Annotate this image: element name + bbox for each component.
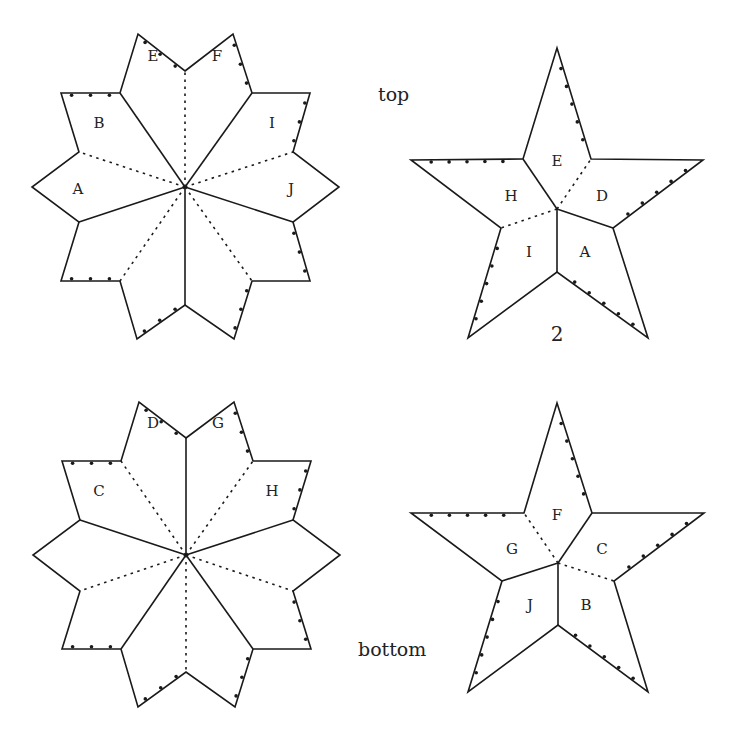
seam-tick-mark [173, 308, 177, 312]
seam-tick-mark [108, 93, 112, 97]
seam-tick-mark [574, 634, 578, 638]
seam-tick-mark [570, 102, 574, 106]
seam-tick-mark [576, 120, 580, 124]
piece-label-D: D [147, 414, 159, 432]
seam-tick-mark [304, 469, 308, 473]
bottom-five-point-star-outline [411, 403, 704, 692]
seam-tick-mark [292, 139, 296, 143]
seam-tick-mark [71, 645, 75, 649]
seam-tick-mark [670, 533, 674, 537]
piece-label-E: E [552, 152, 563, 170]
piece-label-H: H [265, 482, 278, 500]
seam-tick-mark [159, 686, 163, 690]
seam-tick-mark [565, 439, 569, 443]
seam-tick-mark [70, 277, 74, 281]
seam-tick-mark [292, 600, 296, 604]
seam-tick-mark [90, 645, 94, 649]
seam-tick-mark [602, 301, 606, 305]
seam-tick-mark [298, 619, 302, 623]
seam-tick-mark [108, 277, 112, 281]
seam-tick-mark [495, 247, 499, 251]
piece-label-A: A [72, 180, 84, 198]
seam-tick-mark [298, 250, 302, 254]
caption-bottom: bottom [358, 638, 426, 660]
seam-tick-mark [669, 180, 673, 184]
seam-tick-mark [501, 160, 505, 164]
seam-tick-mark [617, 666, 621, 670]
seam-tick-mark [173, 64, 177, 68]
bottom-five-point-star: FGCJB [411, 403, 704, 692]
seam-tick-mark [245, 81, 249, 85]
seam-tick-mark [304, 637, 308, 641]
seam-tick-mark [617, 312, 621, 316]
seam-tick-mark [447, 160, 451, 164]
seam-tick-mark [303, 269, 307, 273]
seam-tick-mark [466, 513, 470, 517]
seam-tick-mark [109, 645, 113, 649]
piece-label-G: G [506, 540, 518, 558]
seam-tick-mark [588, 644, 592, 648]
figure-number-label: 2 [551, 322, 564, 346]
piece-label-B: B [580, 596, 591, 614]
seam-tick-mark [484, 513, 488, 517]
seam-tick-mark [240, 676, 244, 680]
seam-tick-mark [429, 160, 433, 164]
top-five-point-star-outline [411, 48, 703, 338]
piece-label-A: A [579, 243, 591, 261]
piece-label-G: G [212, 414, 224, 432]
seam-tick-mark [631, 676, 635, 680]
seam-tick-mark [239, 62, 243, 66]
seam-tick-mark [109, 461, 113, 465]
seam-tick-mark [89, 93, 93, 97]
seam-tick-mark [292, 507, 296, 511]
piece-label-J: J [525, 596, 533, 614]
seam-tick-mark [576, 475, 580, 479]
seam-tick-mark [631, 323, 635, 327]
piece-label-E: E [148, 47, 159, 65]
seam-tick-mark [245, 289, 249, 293]
seam-tick-mark [71, 461, 75, 465]
shapes-layer: EFBIAJEHDIADGCHFGCJB [32, 34, 704, 707]
seam-tick-mark [485, 282, 489, 286]
seam-tick-mark [483, 160, 487, 164]
seam-tick-mark [685, 522, 689, 526]
seam-tick-mark [641, 201, 645, 205]
seam-tick-mark [465, 160, 469, 164]
seam-tick-mark [491, 618, 495, 622]
seam-tick-mark [480, 653, 484, 657]
seam-tick-mark [626, 212, 630, 216]
piece-label-H: H [504, 187, 517, 205]
piece-label-I: I [269, 114, 275, 132]
seam-tick-mark [174, 432, 178, 436]
piece-label-F: F [552, 506, 562, 524]
seam-tick-mark [70, 93, 74, 97]
seam-tick-mark [159, 420, 163, 424]
piece-label-C: C [596, 540, 607, 558]
seam-tick-mark [239, 308, 243, 312]
seam-tick-mark [234, 412, 238, 416]
bottom-decagon-star: DGCH [33, 402, 340, 707]
seam-tick-mark [603, 655, 607, 659]
seam-tick-mark [587, 291, 591, 295]
seam-tick-mark [303, 101, 307, 105]
seam-tick-mark [144, 408, 148, 412]
seam-tick-mark [573, 280, 577, 284]
seam-tick-mark [642, 554, 646, 558]
seam-tick-mark [233, 326, 237, 330]
caption-top: top [378, 83, 409, 105]
seam-tick-mark [448, 513, 452, 517]
seam-tick-mark [581, 138, 585, 142]
piece-label-F: F [212, 47, 222, 65]
seam-tick-mark [490, 264, 494, 268]
seam-tick-mark [582, 492, 586, 496]
seam-tick-mark [158, 52, 162, 56]
seam-tick-mark [565, 85, 569, 89]
seam-tick-mark [430, 513, 434, 517]
seam-tick-mark [656, 543, 660, 547]
seam-tick-mark [234, 694, 238, 698]
seam-tick-mark [158, 318, 162, 322]
seam-tick-mark [474, 671, 478, 675]
seam-tick-mark [174, 675, 178, 679]
seam-tick-mark [246, 657, 250, 661]
seam-tick-mark [474, 317, 478, 321]
